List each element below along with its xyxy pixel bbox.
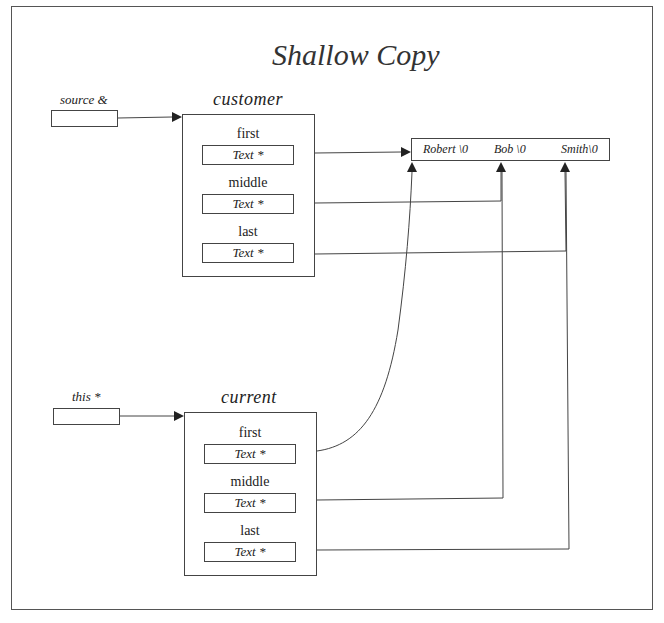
string-segment-robert: Robert \0 [423,142,468,157]
customer-field-middle-label: middle [202,175,294,191]
current-field-first-label: first [204,425,296,441]
source-ref-label: source & [60,92,108,108]
customer-object-box: first Text * middle Text * last Text * [182,114,315,277]
customer-object-label: customer [213,89,283,110]
diagram-title: Shallow Copy [272,38,440,72]
customer-field-last-label: last [202,224,294,240]
current-object-label: current [221,387,277,408]
current-field-first-box: Text * [204,444,296,464]
string-buffer-box: Robert \0 Bob \0 Smith\0 [411,138,610,161]
string-segment-bob: Bob \0 [494,142,526,157]
current-field-last-label: last [204,523,296,539]
string-segment-smith: Smith\0 [561,142,598,157]
this-ref-box [53,408,120,425]
current-field-last-box: Text * [204,542,296,562]
current-field-middle-box: Text * [204,493,296,513]
current-field-middle-label: middle [204,474,296,490]
customer-field-middle-box: Text * [202,194,294,214]
this-ref-label: this * [72,389,101,405]
customer-field-first-box: Text * [202,145,294,165]
customer-field-last-box: Text * [202,243,294,263]
customer-field-first-label: first [202,126,294,142]
current-object-box: first Text * middle Text * last Text * [184,412,317,576]
source-ref-box [51,110,118,127]
